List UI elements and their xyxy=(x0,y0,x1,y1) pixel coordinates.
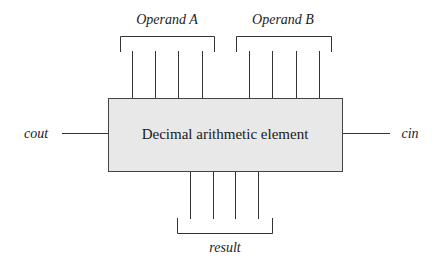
operand-b-bracket xyxy=(237,37,332,53)
operand-a-label: Operand A xyxy=(136,12,198,27)
result-bracket xyxy=(178,218,273,234)
result-bus xyxy=(191,172,259,219)
result-label: result xyxy=(209,240,241,255)
operand-a-bus xyxy=(133,51,203,98)
cout-label: cout xyxy=(24,126,49,141)
operand-b-bus xyxy=(250,51,320,98)
element-label: Decimal arithmetic element xyxy=(142,126,309,142)
cin-label: cin xyxy=(401,126,418,141)
operand-b-label: Operand B xyxy=(252,12,314,27)
operand-a-bracket xyxy=(121,37,215,53)
diagram-canvas: Operand A Operand B Decimal arithmetic e… xyxy=(0,0,443,263)
